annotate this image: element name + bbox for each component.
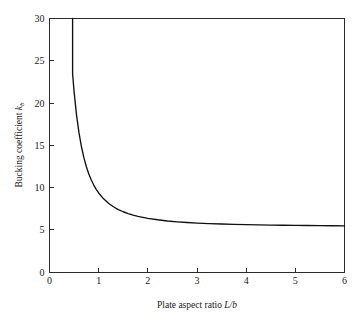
- y-axis-title-sub: b: [18, 102, 26, 106]
- x-tick-label-5: 5: [293, 275, 298, 286]
- y-axis-title-text: Bucking coefficient: [14, 110, 24, 187]
- y-tick-label-25: 25: [35, 55, 45, 66]
- x-axis-title-var-den: b: [232, 300, 237, 310]
- chart-figure: 051015202530 0123456 Plate aspect ratio …: [0, 0, 362, 321]
- x-tick-label-4: 4: [244, 275, 249, 286]
- y-tick-label-20: 20: [35, 98, 45, 109]
- y-tick-label-15: 15: [35, 140, 45, 151]
- y-tick-label-0: 0: [40, 267, 45, 278]
- x-tick-label-2: 2: [145, 275, 150, 286]
- x-tick-label-3: 3: [195, 275, 200, 286]
- x-tick-label-6: 6: [342, 275, 347, 286]
- x-tick-label-0: 0: [47, 275, 52, 286]
- x-axis-title-text: Plate aspect ratio: [157, 300, 224, 310]
- chart-background: [0, 0, 362, 321]
- y-tick-label-10: 10: [35, 182, 45, 193]
- x-axis-title: Plate aspect ratio L/b: [157, 300, 237, 310]
- x-tick-label-1: 1: [96, 275, 101, 286]
- y-tick-label-5: 5: [40, 224, 45, 235]
- y-tick-label-30: 30: [35, 13, 45, 24]
- buckling-coefficient-line-chart: 051015202530 0123456 Plate aspect ratio …: [0, 0, 362, 321]
